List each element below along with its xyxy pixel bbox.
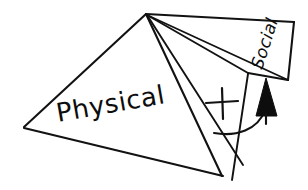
pyramid-diagram: Physical Social xyxy=(0,0,308,190)
plus-icon-vertical xyxy=(222,88,223,119)
up-arrow-icon xyxy=(256,78,277,116)
up-arrow-group xyxy=(256,78,277,124)
diagram-canvas: Physical Social xyxy=(0,0,308,190)
